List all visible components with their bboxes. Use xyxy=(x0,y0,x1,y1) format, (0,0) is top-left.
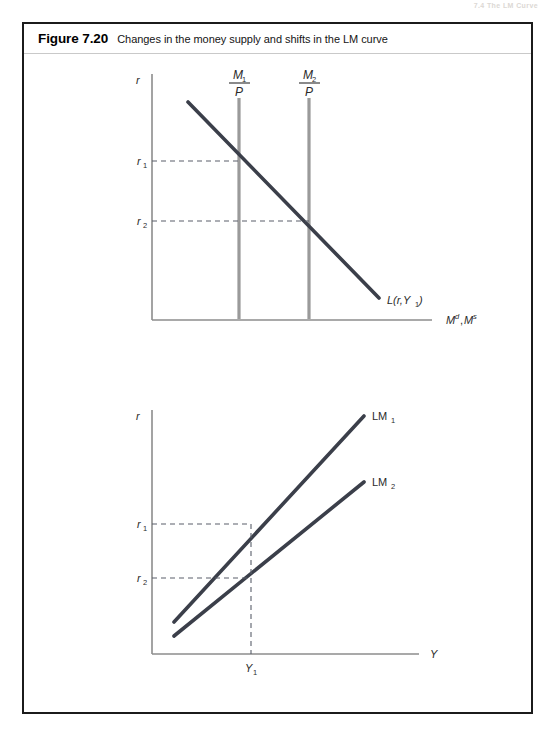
page-root: 7.4 The LM Curve Changes in the money su… xyxy=(0,0,548,732)
chart-lm-curves: r Y LM 1 LM 2 r xyxy=(24,382,531,682)
figure-caption: Changes in the money supply and shifts i… xyxy=(117,33,388,45)
svg-text:,: , xyxy=(460,314,463,326)
money-demand-curve-label: L(r,Y 1 ) xyxy=(387,294,423,309)
lm1-curve xyxy=(174,416,364,622)
svg-text:2: 2 xyxy=(143,221,147,230)
r1-label-money-market: r 1 xyxy=(137,155,147,170)
x-axis-label-lm-curves: Y xyxy=(430,648,438,660)
chart-money-market: r M d , M s M 1 P xyxy=(24,54,531,334)
svg-text:1: 1 xyxy=(391,416,395,425)
svg-text:s: s xyxy=(473,312,477,321)
svg-text:1: 1 xyxy=(143,161,147,170)
lm2-curve xyxy=(174,482,364,636)
y-axis-label-money-market: r xyxy=(136,74,141,86)
svg-text:r: r xyxy=(137,572,142,584)
svg-text:1: 1 xyxy=(253,668,257,677)
y1-label-lm-curves: Y 1 xyxy=(245,662,257,677)
svg-text:r: r xyxy=(137,518,142,530)
svg-text:P: P xyxy=(305,85,313,99)
r2-label-money-market: r 2 xyxy=(137,215,147,230)
r1-label-lm-curves: r 1 xyxy=(137,518,147,533)
svg-text:P: P xyxy=(235,85,243,99)
ghost-running-header: 7.4 The LM Curve xyxy=(474,2,538,9)
money-demand-curve xyxy=(188,102,379,298)
money-supply-label-2: M 2 P xyxy=(299,68,320,99)
figure-header: Figure 7.20 Changes in the money supply … xyxy=(24,24,531,54)
svg-text:LM: LM xyxy=(372,476,387,488)
lm1-curve-label: LM 1 xyxy=(372,410,395,425)
figure-number: Figure 7.20 xyxy=(38,31,108,46)
svg-text:1: 1 xyxy=(143,524,147,533)
figure-box: Figure 7.20 Changes in the money supply … xyxy=(22,22,533,714)
svg-text:2: 2 xyxy=(391,482,395,491)
r2-label-lm-curves: r 2 xyxy=(137,572,147,587)
y-axis-label-lm-curves: r xyxy=(136,410,141,422)
svg-text:r: r xyxy=(137,155,142,167)
x-axis-label-money-market: M d , M s xyxy=(446,312,477,326)
svg-text:2: 2 xyxy=(143,578,147,587)
svg-text:L(r,Y: L(r,Y xyxy=(387,294,411,306)
money-supply-label-1: M 1 P xyxy=(229,68,250,99)
svg-text:Y: Y xyxy=(245,662,253,674)
svg-text:LM: LM xyxy=(372,410,387,422)
lm2-curve-label: LM 2 xyxy=(372,476,395,491)
svg-text:r: r xyxy=(137,215,142,227)
